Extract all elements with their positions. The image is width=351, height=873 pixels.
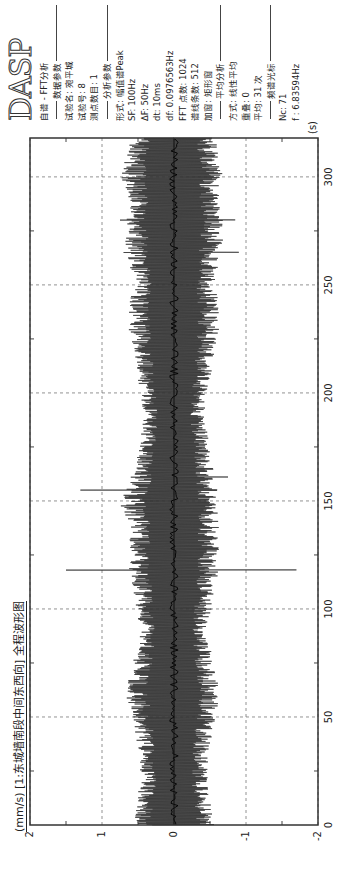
panel-param: ΔF: 50Hz bbox=[139, 3, 152, 121]
panel-param: 重叠: 0 bbox=[240, 3, 253, 121]
panel-param: 平均: 31 次 bbox=[252, 3, 265, 121]
x-tick-label: 250 bbox=[323, 275, 334, 294]
x-tick-label: 300 bbox=[323, 167, 334, 186]
panel-section-header: 频谱光标 bbox=[265, 3, 278, 121]
x-tick-label: 200 bbox=[323, 383, 334, 402]
panel-param: 形式: 幅值谱Peak bbox=[114, 3, 127, 121]
dasp-logo: DASP bbox=[6, 3, 36, 121]
panel-section-header: 数据参数 bbox=[51, 3, 64, 121]
dasp-info-panel: DASP 自谱 - FFT分析数据参数试验名: 宛平城试验号: 8测点数目: 1… bbox=[6, 3, 302, 121]
panel-section-header: 分析参数 bbox=[101, 3, 114, 121]
x-axis-unit-label: (s) bbox=[307, 121, 318, 134]
y-tick-label: -1 bbox=[240, 831, 251, 841]
x-tick-label: 0 bbox=[323, 822, 334, 828]
y-tick-label: 2 bbox=[24, 831, 35, 837]
x-tick-label: 100 bbox=[323, 599, 334, 618]
panel-param: 试验名: 宛平城 bbox=[63, 3, 76, 121]
y-tick-label: -2 bbox=[312, 831, 323, 841]
x-tick-label: 50 bbox=[323, 711, 334, 724]
panel-param: FFT 点数: 1024 bbox=[177, 3, 190, 121]
x-tick-label: 150 bbox=[323, 491, 334, 510]
y-tick-label: 0 bbox=[168, 831, 179, 837]
panel-param: 谱线条数: 512 bbox=[189, 3, 202, 121]
panel-param: SF: 100Hz bbox=[126, 3, 139, 121]
panel-param: 试验号: 8 bbox=[76, 3, 89, 121]
waveform-plot: 210-1-2050100150200250300(s) bbox=[0, 0, 351, 873]
panel-param: dt: 10ms bbox=[151, 3, 164, 121]
y-tick-label: 1 bbox=[96, 831, 107, 837]
panel-param: df: 0.0976563Hz bbox=[164, 3, 177, 121]
chart-stage: (mm/s) [1:东城墙南段中间东西向] 全程波形图 210-1-205010… bbox=[0, 0, 351, 873]
panel-section-header: 平均分析 bbox=[214, 3, 227, 121]
waveform-trace bbox=[66, 138, 296, 825]
panel-param: 自谱 - FFT分析 bbox=[38, 3, 51, 121]
panel-param: 测点数目: 1 bbox=[88, 3, 101, 121]
panel-param: f : 6.83594Hz bbox=[290, 3, 303, 121]
panel-param: 加窗: 矩形窗 bbox=[202, 3, 215, 121]
panel-param: 方式: 线性平均 bbox=[227, 3, 240, 121]
panel-param: Nc: 71 bbox=[277, 3, 290, 121]
